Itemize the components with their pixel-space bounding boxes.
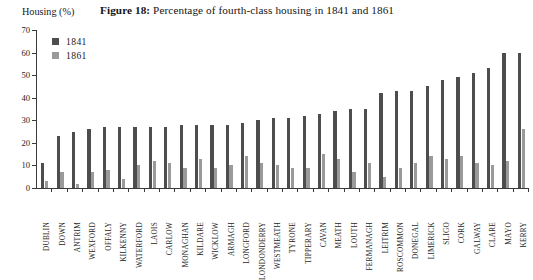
x-axis-category-label: MAYO [504,222,513,245]
bar-1841 [57,136,60,188]
x-axis-tick [405,188,406,192]
bar-1861 [60,172,63,188]
x-axis-tick [313,188,314,192]
bar-1841 [395,91,398,188]
x-axis-category-label: CLARE [488,222,497,247]
y-axis-tick [32,53,37,54]
bar-1861 [291,168,294,188]
x-axis-tick [221,188,222,192]
x-axis-category-label: GALWAY [473,222,482,254]
y-axis-tick-label: 60 [21,48,30,58]
x-axis-category-label: WATERFORD [135,222,144,268]
x-axis-tick [174,188,175,192]
x-axis-category-label: WEXFORD [88,222,97,260]
x-axis-tick [159,188,160,192]
bar-1841 [41,163,44,188]
x-axis-tick [82,188,83,192]
y-axis-tick [32,143,37,144]
bar-1861 [276,165,279,188]
x-axis-category-label: ARMAGH [227,222,236,256]
y-axis-tick-label: 70 [21,25,30,35]
plot-area: 010203040506070 DUBLINDOWNANTRIMWEXFORDO… [36,30,528,188]
x-axis-tick [67,188,68,192]
bar-1841 [133,127,136,188]
x-axis-category-label: DONEGAL [411,222,420,259]
bar-1841 [349,109,352,188]
bar-1861 [229,165,232,188]
x-axis-category-label: CAVAN [319,222,328,247]
x-axis-category-label: DOWN [58,222,67,246]
bar-1841 [256,120,259,188]
y-axis-tick [32,75,37,76]
x-axis-tick [236,188,237,192]
bar-1841 [379,93,382,188]
x-axis-category-label: KILKENNY [119,222,128,262]
x-axis-category-label: CORK [457,222,466,243]
bar-1861 [445,159,448,188]
x-axis-category-label: ROSCOMMON [396,222,405,272]
x-axis-category-label: DUBLIN [42,222,51,251]
x-axis-tick [436,188,437,192]
x-axis-tick [297,188,298,192]
x-axis-category-label: WICKLOW [211,222,220,260]
y-axis-tick-label: 40 [21,93,30,103]
bar-1861 [475,163,478,188]
bar-1861 [168,163,171,188]
bar-1861 [491,165,494,188]
x-axis-category-label: MEATH [334,222,343,248]
bar-1841 [487,68,490,188]
bar-1861 [399,168,402,188]
x-axis-tick [420,188,421,192]
y-axis-tick-label: 50 [21,70,30,80]
bar-1861 [153,161,156,188]
bar-1841 [87,129,90,188]
x-axis-category-label: TIPPERARY [304,222,313,264]
bar-1841 [441,80,444,188]
x-axis-tick [390,188,391,192]
x-axis-category-label: LAOIS [150,222,159,245]
bar-1861 [199,159,202,188]
x-axis-category-label: MONAGHAN [181,222,190,267]
x-axis-tick [513,188,514,192]
y-axis-tick [32,98,37,99]
y-axis-tick-label: 20 [21,138,30,148]
bar-1841 [210,125,213,188]
bar-1841 [318,114,321,188]
bar-1861 [122,179,125,188]
bar-1841 [164,127,167,188]
x-axis-tick [190,188,191,192]
x-axis-category-label: LIMERICK [427,222,436,259]
x-axis-category-label: KERRY [519,222,528,248]
x-axis-category-label: OFFALY [104,222,113,251]
x-axis-category-label: CARLOW [165,222,174,255]
bar-1841 [195,125,198,188]
bar-1841 [180,125,183,188]
y-axis-tick-label: 10 [21,160,30,170]
bar-1861 [45,181,48,188]
bar-1861 [106,170,109,188]
y-axis-tick-label: 30 [21,115,30,125]
figure-title-text: Percentage of fourth-class housing in 18… [153,4,394,16]
x-axis-tick [205,188,206,192]
y-axis-tick-label: 0 [26,183,30,193]
bar-1841 [103,127,106,188]
y-axis-tick [32,165,37,166]
bar-1841 [502,53,505,188]
bar-1861 [214,168,217,188]
bar-1841 [456,77,459,188]
bar-1841 [149,127,152,188]
bar-1841 [472,73,475,188]
bar-1841 [410,91,413,188]
bar-1841 [364,109,367,188]
x-axis-category-label: LONDONDERRY [258,222,267,280]
bar-1861 [306,168,309,188]
x-axis-category-label: LOUTH [350,222,359,248]
bar-1841 [333,111,336,188]
x-axis-tick [528,188,529,192]
bar-1841 [118,127,121,188]
x-axis-tick [144,188,145,192]
x-axis-tick [497,188,498,192]
y-axis-caption: Housing (%) [22,6,74,17]
x-axis-category-label: TYRONE [288,222,297,253]
